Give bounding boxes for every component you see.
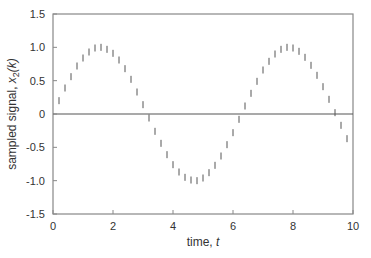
x-tick-label: 10	[347, 220, 359, 232]
y-tick-label: 1.5	[30, 8, 45, 20]
y-tick-label: 0	[39, 108, 45, 120]
y-tick-label: -1.0	[26, 175, 45, 187]
y-axis-label: sampled signal, x2(k)	[5, 58, 21, 170]
y-axis-ticks: 1.51.00.50-0.5-1.0-1.5	[26, 8, 57, 220]
x-tick-label: 0	[50, 220, 56, 232]
x-tick-label: 8	[290, 220, 296, 232]
x-tick-label: 4	[170, 220, 176, 232]
x-axis-label: time, t	[187, 235, 220, 249]
x-tick-label: 6	[230, 220, 236, 232]
y-tick-label: -1.5	[26, 208, 45, 220]
y-tick-label: 1.0	[30, 41, 45, 53]
y-tick-label: 0.5	[30, 75, 45, 87]
chart: 0246810 1.51.00.50-0.5-1.0-1.5 time, t s…	[0, 0, 371, 258]
y-tick-label: -0.5	[26, 141, 45, 153]
x-tick-label: 2	[110, 220, 116, 232]
x-axis-ticks: 0246810	[50, 210, 359, 232]
